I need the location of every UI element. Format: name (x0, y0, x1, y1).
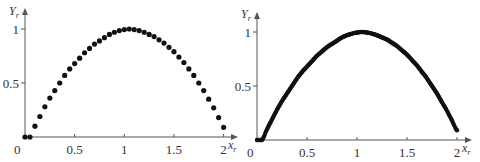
left-data-point (42, 104, 47, 109)
left-data-point (62, 73, 67, 78)
left-data-point (27, 134, 32, 139)
left-data-point (72, 61, 77, 66)
left-data-point (201, 88, 206, 93)
right-x-tick-label: 2 (454, 145, 461, 160)
left-data-point (82, 50, 87, 55)
right-y-tick-label: 0.5 (235, 79, 251, 94)
left-data-point (196, 80, 201, 85)
left-data-point (132, 27, 137, 32)
left-data-point (211, 105, 216, 110)
left-data-point (161, 40, 166, 45)
left-data-point (122, 27, 127, 32)
right-x-tick-label: 1 (354, 145, 361, 160)
left-data-point (166, 45, 171, 50)
left-data-point (186, 66, 191, 71)
left-data-point (52, 88, 57, 93)
left-origin-label: 0 (14, 142, 21, 157)
left-data-point (156, 37, 161, 42)
left-data-point (107, 32, 112, 37)
left-data-point (57, 80, 62, 85)
left-data-point (191, 73, 196, 78)
left-data-point (77, 56, 82, 61)
left-y-tick-label: 1 (13, 22, 20, 37)
right-x-tick-label: 0.5 (299, 145, 315, 160)
right-origin-label: 0 (247, 145, 254, 160)
right-y-axis-label: Yr (241, 7, 252, 23)
left-data-point (137, 28, 142, 33)
right-x-tick-label: 1.5 (399, 145, 415, 160)
left-x-tick-label: 1 (121, 142, 128, 157)
left-data-point (151, 34, 156, 39)
left-data-point (181, 60, 186, 65)
left-data-point (117, 28, 122, 33)
left-data-point (32, 124, 37, 129)
left-data-point (112, 30, 117, 35)
left-data-point (171, 49, 176, 54)
left-data-point (102, 35, 107, 40)
left-x-tick-label: 2 (220, 142, 227, 157)
left-x-tick-label: 0.5 (67, 142, 83, 157)
right-chart: 0.511.520.51 0 Yr xr (235, 7, 472, 160)
left-data-point (67, 66, 72, 71)
left-chart: 0.511.520.51 0 Yr xr (3, 4, 238, 157)
right-x-axis-label: xr (461, 141, 471, 157)
left-data-point (147, 32, 152, 37)
left-data-point (176, 54, 181, 59)
left-data-point (221, 125, 226, 130)
left-data-point (22, 134, 27, 139)
left-data-point (37, 114, 42, 119)
left-data-point (216, 115, 221, 120)
left-y-axis-arrow-icon (22, 8, 28, 15)
left-data-point (97, 38, 102, 43)
right-data-point (455, 128, 459, 132)
left-x-axis-label: xr (227, 138, 237, 154)
right-y-axis-arrow-icon (254, 12, 260, 19)
left-data-point (47, 96, 52, 101)
right-y-tick-label: 1 (245, 25, 252, 40)
left-x-tick-label: 1.5 (166, 142, 182, 157)
figure: 0.511.520.51 0 Yr xr 0.511.520.51 0 Yr x… (0, 0, 480, 162)
left-y-axis-label: Yr (9, 4, 20, 20)
left-y-tick-label: 0.5 (3, 76, 19, 91)
left-data-point (92, 42, 97, 47)
left-data-point (206, 97, 211, 102)
left-data-point (142, 30, 147, 35)
left-data-point (127, 26, 132, 31)
left-data-point (87, 46, 92, 51)
